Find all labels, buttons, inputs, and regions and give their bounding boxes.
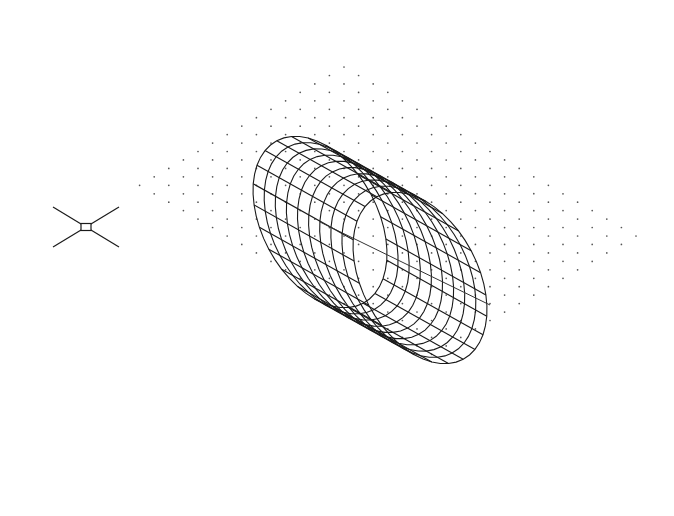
grid-dot: [343, 83, 345, 85]
grid-dot: [358, 210, 360, 212]
grid-dot: [431, 184, 433, 186]
grid-dot: [489, 151, 491, 153]
grid-dot: [416, 260, 418, 262]
grid-dot: [358, 244, 360, 246]
grid-dot: [548, 252, 550, 254]
cylinder-wireframe[interactable]: [253, 137, 490, 364]
grid-dot: [402, 252, 404, 254]
grid-dot: [343, 66, 345, 68]
grid-dot: [402, 151, 404, 153]
grid-dot: [314, 134, 316, 136]
grid-dot: [416, 142, 418, 144]
grid-dot: [387, 227, 389, 229]
grid-dot: [256, 151, 258, 153]
grid-dot: [402, 184, 404, 186]
grid-dot: [518, 201, 520, 203]
grid-dot: [372, 201, 374, 203]
grid-dot: [329, 91, 331, 93]
grid-dot: [460, 134, 462, 136]
grid-dot: [518, 303, 520, 305]
grid-dot: [329, 108, 331, 110]
grid-dot: [591, 261, 593, 263]
grid-dot: [518, 269, 520, 271]
grid-dot: [533, 244, 535, 246]
grid-dot: [270, 108, 272, 110]
grid-dot: [387, 159, 389, 161]
grid-dot: [489, 252, 491, 254]
grid-dot: [416, 159, 418, 161]
grid-dot: [518, 218, 520, 220]
cylinder-generator-line: [349, 308, 449, 364]
grid-dot: [314, 184, 316, 186]
grid-dot: [402, 303, 404, 305]
grid-dot: [256, 201, 258, 203]
grid-dot: [343, 269, 345, 271]
grid-dot: [431, 117, 433, 119]
grid-dot: [431, 134, 433, 136]
grid-dot: [314, 201, 316, 203]
grid-dot: [489, 201, 491, 203]
grid-dot: [504, 244, 506, 246]
grid-dot: [343, 117, 345, 119]
grid-dot: [416, 176, 418, 178]
grid-dot: [489, 235, 491, 237]
grid-dot: [504, 294, 506, 296]
grid-dot: [402, 320, 404, 322]
grid-dot: [358, 92, 360, 94]
grid-dot: [445, 193, 447, 195]
grid-dot: [329, 260, 331, 262]
grid-dot: [504, 260, 506, 262]
grid-dot: [226, 168, 228, 170]
grid-dot: [226, 201, 228, 203]
grid-dot: [387, 244, 389, 246]
grid-dot: [372, 269, 374, 271]
grid-dot: [416, 108, 418, 110]
grid-dot: [489, 269, 491, 271]
grid-dot: [183, 159, 185, 161]
grid-dot: [460, 218, 462, 220]
grid-dot: [285, 168, 287, 170]
grid-dot: [358, 125, 360, 127]
grid-dot: [358, 227, 360, 229]
grid-dot: [212, 227, 214, 229]
grid-dot: [387, 277, 389, 279]
grid-dot: [475, 159, 477, 161]
grid-dot: [314, 100, 316, 102]
grid-dot: [518, 184, 520, 186]
grid-dot: [270, 176, 272, 178]
grid-dot: [518, 252, 520, 254]
ucs-icon: [53, 207, 119, 247]
grid-dot: [372, 168, 374, 170]
grid-dot: [387, 311, 389, 313]
grid-dot: [358, 142, 360, 144]
grid-dot: [489, 168, 491, 170]
grid-dot: [314, 117, 316, 119]
grid-dot: [299, 91, 301, 93]
grid-dot: [445, 125, 447, 127]
grid-dot: [197, 184, 199, 186]
grid-dot: [183, 210, 185, 212]
grid-dot: [504, 193, 506, 195]
drawing-viewport[interactable]: CAD model space viewport: [0, 0, 674, 516]
grid-dot: [635, 235, 637, 237]
grid-dot: [533, 227, 535, 229]
grid-dot: [445, 176, 447, 178]
grid-dot: [504, 277, 506, 279]
grid-dot: [489, 184, 491, 186]
grid-dot: [372, 252, 374, 254]
grid-dot: [226, 151, 228, 153]
grid-dot: [402, 168, 404, 170]
grid-dot: [212, 159, 214, 161]
grid-dot: [445, 328, 447, 330]
grid-dot: [591, 210, 593, 212]
grid-dot: [445, 277, 447, 279]
grid-dot: [577, 218, 579, 220]
grid-dot: [372, 218, 374, 220]
model-space-canvas[interactable]: [0, 0, 674, 516]
grid-dot: [460, 201, 462, 203]
grid-dot: [372, 117, 374, 119]
grid-dot: [168, 184, 170, 186]
grid-dot: [241, 210, 243, 212]
grid-dot: [212, 210, 214, 212]
grid-dot: [241, 159, 243, 161]
